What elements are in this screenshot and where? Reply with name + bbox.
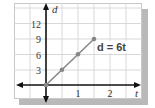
x-axis-label: t xyxy=(135,87,139,99)
equation-label: d = 6t xyxy=(97,41,126,53)
x-tick-1: 1 xyxy=(76,88,81,99)
line-chart: 12 9 6 3 1 2 d t d = 6t xyxy=(0,0,155,108)
y-tick-3: 3 xyxy=(36,65,41,76)
data-point-1 xyxy=(60,67,65,72)
series-line xyxy=(46,39,94,85)
data-point-2 xyxy=(76,52,81,57)
x-axis-left-arrow-icon xyxy=(16,82,23,88)
data-point-3 xyxy=(92,37,97,42)
y-axis-up-arrow-icon xyxy=(43,3,49,10)
y-tick-12: 12 xyxy=(31,19,41,30)
x-tick-2: 2 xyxy=(108,88,113,99)
y-axis-down-arrow-icon xyxy=(43,96,49,103)
y-tick-9: 9 xyxy=(36,34,41,45)
data-point-0 xyxy=(44,83,49,88)
y-tick-6: 6 xyxy=(36,50,41,61)
y-axis-label: d xyxy=(52,3,58,15)
